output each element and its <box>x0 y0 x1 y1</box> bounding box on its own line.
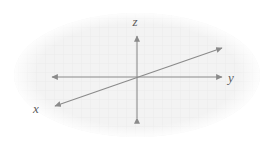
figure-canvas: x y z <box>0 0 267 144</box>
axis-label-x: x <box>32 101 39 116</box>
coordinate-axes-figure: x y z <box>0 0 267 144</box>
axis-label-z: z <box>131 14 137 29</box>
axis-label-y: y <box>226 70 234 85</box>
